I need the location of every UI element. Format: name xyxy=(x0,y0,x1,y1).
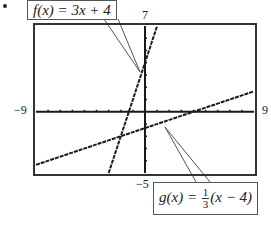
ymin-tick-label: −5 xyxy=(136,178,149,190)
g-function-suffix: (x − 4) xyxy=(210,189,252,205)
axes xyxy=(36,26,254,173)
g-function-callout: g(x) = 1 3 (x − 4) xyxy=(153,182,258,215)
xmin-tick-label: −9 xyxy=(14,104,27,116)
series-line-0 xyxy=(109,26,157,173)
g-function-prefix: g(x) = xyxy=(159,189,197,205)
g-fraction: 1 3 xyxy=(202,187,210,210)
f-function-label: f(x) = 3x + 4 xyxy=(33,2,111,18)
g-callout-pointer xyxy=(165,127,210,182)
xmax-tick-label: 9 xyxy=(262,104,268,116)
f-function-callout: f(x) = 3x + 4 xyxy=(27,0,117,20)
f-callout-pointer xyxy=(104,19,140,72)
ymax-tick-label: 7 xyxy=(142,9,148,21)
